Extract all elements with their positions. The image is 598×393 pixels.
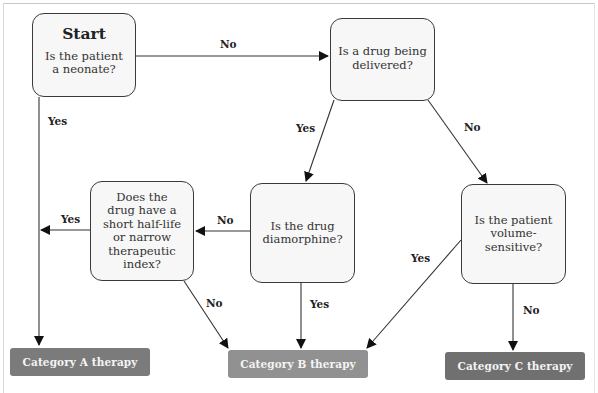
short-half-life-question: Does the drug have a short half-life or … [102,191,182,272]
start-question: Is the patient a neonate? [40,50,128,77]
label-diamorphine-yes: Yes [310,298,329,310]
label-halflife-yes: Yes [61,213,80,225]
category-a-box: Category A therapy [10,348,150,376]
volume-sensitive-node: Is the patient volume-sensitive? [461,184,566,284]
category-b-box: Category B therapy [228,350,368,378]
label-start-yes: Yes [48,115,67,127]
diamorphine-node: Is the drug diamorphine? [250,183,355,283]
arrow-delivered-no [428,100,487,183]
label-delivered-no: No [464,121,481,133]
arrow-delivered-yes [306,100,334,181]
label-delivered-yes: Yes [296,122,315,134]
label-halflife-no: No [206,297,223,309]
drug-delivered-question: Is a drug being delivered? [338,45,428,72]
diamorphine-question: Is the drug diamorphine? [263,220,343,247]
start-node: Start Is the patient a neonate? [32,13,136,97]
short-half-life-node: Does the drug have a short half-life or … [90,181,194,281]
start-title: Start [62,27,106,41]
volume-sensitive-question: Is the patient volume-sensitive? [474,214,554,255]
label-start-no: No [220,38,237,50]
arrow-halflife-no [184,281,228,348]
label-diamorphine-no: No [217,214,234,226]
drug-delivered-node: Is a drug being delivered? [330,18,435,101]
label-volume-no: No [523,304,540,316]
label-volume-yes: Yes [411,252,430,264]
category-c-box: Category C therapy [445,352,585,380]
